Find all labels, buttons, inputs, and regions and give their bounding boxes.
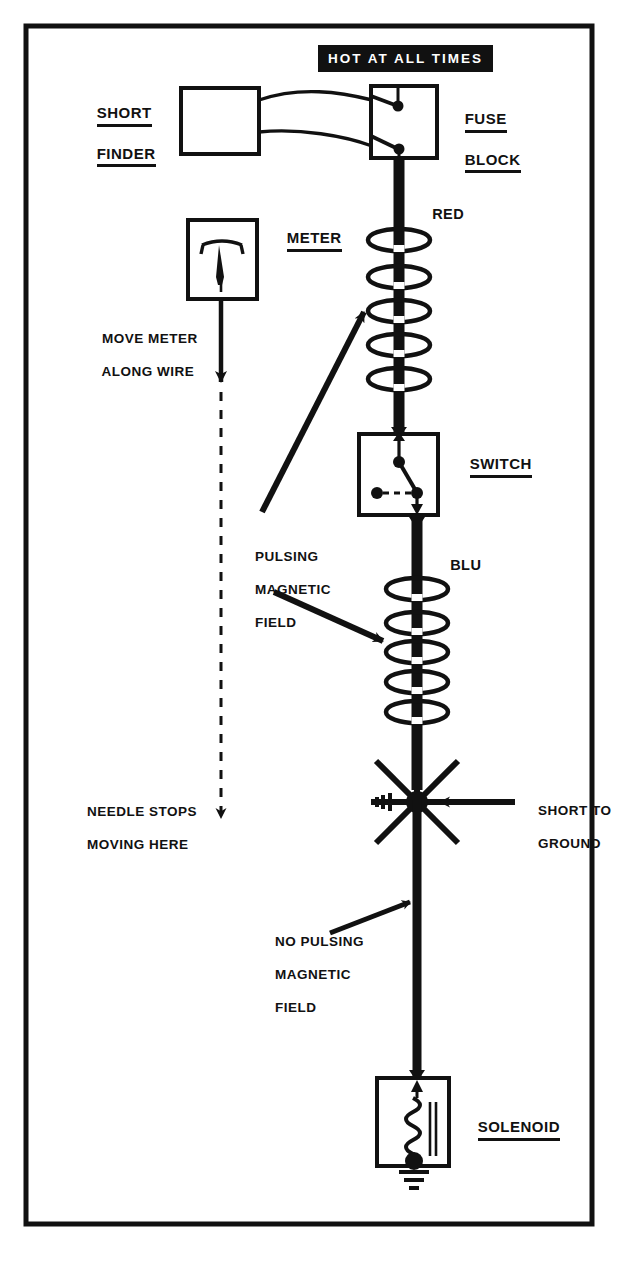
wire-red-label: RED	[414, 188, 464, 241]
short-finder-box	[181, 88, 259, 154]
probe-lead-upper	[259, 92, 372, 100]
solenoid-ground-terminal	[405, 1152, 423, 1170]
diagram-canvas: HOT AT ALL TIMES SHORT FINDER FUSE BLOCK…	[0, 0, 620, 1267]
meter-scale-tick-right	[241, 245, 243, 254]
short-finder-label-line1: SHORT	[97, 104, 152, 126]
no-pulsing-field-line1: NO PULSING	[275, 934, 364, 949]
wire-blu-label: BLU	[432, 539, 481, 592]
fuse-block-label-line2: BLOCK	[465, 151, 521, 173]
switch-open-contact	[371, 487, 383, 499]
move-meter-annotation: MOVE METER ALONG WIRE	[85, 315, 198, 397]
no-pulsing-field-line2: MAGNETIC	[275, 967, 351, 982]
solenoid-label-text: SOLENOID	[478, 1118, 560, 1140]
chassis-ground-icon	[377, 793, 404, 811]
probe-lead-lower	[259, 131, 372, 146]
hot-at-all-times-label: HOT AT ALL TIMES	[328, 51, 483, 66]
solenoid-chassis-ground-icon	[399, 1172, 429, 1188]
pulsing-field-line1: PULSING	[255, 549, 319, 564]
no-pulsing-field-line3: FIELD	[275, 1000, 317, 1015]
fuse-block-label-line1: FUSE	[465, 110, 507, 132]
short-to-ground-line2: GROUND	[538, 836, 601, 851]
solenoid-label: SOLENOID	[459, 1100, 560, 1159]
pulsing-field-arrow-upper	[262, 312, 364, 512]
short-to-ground-line1: SHORT TO	[538, 803, 612, 818]
hot-at-all-times-banner: HOT AT ALL TIMES	[318, 45, 493, 72]
meter-label: METER	[268, 211, 342, 270]
switch-label: SWITCH	[451, 437, 532, 496]
fuse-block-label: FUSE BLOCK	[446, 92, 521, 191]
needle-stops-line2: MOVING HERE	[87, 837, 189, 852]
move-meter-line1: MOVE METER	[102, 331, 198, 346]
pulsing-field-line3: FIELD	[255, 615, 297, 630]
meter-label-text: METER	[287, 229, 342, 251]
needle-stops-line1: NEEDLE STOPS	[87, 804, 197, 819]
short-finder-label: SHORT FINDER	[78, 86, 156, 185]
switch-label-text: SWITCH	[470, 455, 532, 477]
wire-blu-label-text: BLU	[450, 557, 481, 573]
pulsing-field-annotation: PULSING MAGNETIC FIELD	[238, 533, 331, 648]
move-meter-line2: ALONG WIRE	[102, 364, 195, 379]
pulsing-field-line2: MAGNETIC	[255, 582, 331, 597]
meter-box	[188, 220, 257, 299]
needle-stops-annotation: NEEDLE STOPS MOVING HERE	[70, 788, 197, 870]
short-to-ground-annotation: SHORT TO GROUND	[521, 787, 612, 869]
wire-red-label-text: RED	[432, 206, 464, 222]
meter-scale-tick-left	[201, 245, 203, 254]
no-pulsing-field-annotation: NO PULSING MAGNETIC FIELD	[258, 918, 364, 1033]
short-finder-label-line2: FINDER	[97, 145, 156, 167]
